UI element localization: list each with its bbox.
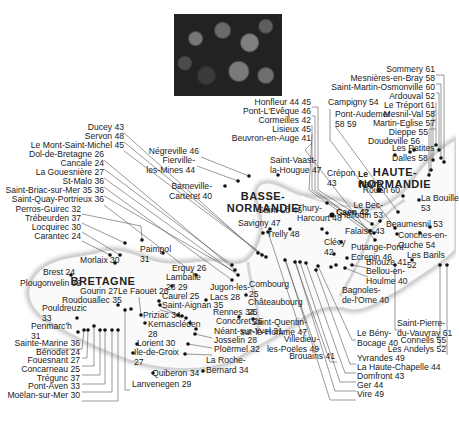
place-label: Thury- Harcourt 48 [297,204,342,223]
place-label: La Bouille 53 [421,194,459,213]
berries-photo [174,14,282,96]
place-label: Crépon 43 [327,169,355,188]
place-label: Châteaubourg 25 [248,298,302,317]
place-label: Beaumesnil 53 [386,220,443,230]
place-label: Trelly 48 [267,230,300,240]
place-label: Ile-de-Groix 27 [134,348,179,367]
place-label: Falaise 43 [345,227,385,237]
place-label: Les Andelys 52 [388,345,446,355]
place-label: Paimpol 31 [140,245,171,264]
place-label: Fierville- les-Mines 44 [146,156,195,175]
place-label: Clécy 42 [324,238,346,257]
place-label: Les Barils 52 [407,251,445,270]
place-label: Rouen 60 [363,186,400,196]
place-label: Brest 24 [43,268,75,278]
place-label: Pont-Audemer 58 59 [335,110,390,129]
place-label: Kernascléden 28 [148,320,201,339]
place-label: Vire 49 [357,390,384,400]
place-label: Beuvron-en-Auge 41 [232,134,311,144]
place-label: Plougonvelin 32 [20,279,81,289]
place-label: La Roche- Bernard 34 [206,356,249,375]
place-label: Quiberon 34 [152,369,199,379]
place-label: Saint-Lô 46 [258,206,302,216]
place-label: Barneville- Carteret 40 [169,182,212,201]
place-label: Morlaix 30 [80,256,120,266]
place-label: Lanvenegen 29 [132,380,191,390]
place-label: Les Petites Dalles 58 [392,144,435,163]
place-label: Carantec 24 [34,232,81,242]
place-label: Campigny 54 [328,98,379,108]
place-label: Brouains 41 [289,352,335,362]
place-label: Saint-Vaast- la-Hougue 47 [270,156,322,175]
place-label: Ploërmel 32 [214,345,260,355]
place-label: Moëlan-sur-Mer 30 [7,391,80,401]
place-label: Lamballe 28 29 [166,273,201,292]
place-label: Savigny 47 [238,219,281,229]
place-label: Bellou-en- Houlme 40 [366,267,408,286]
place-label: Bagnoles- de-l'Orne 40 [342,286,389,305]
